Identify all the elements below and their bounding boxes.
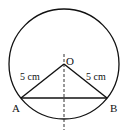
label-point-b: B <box>110 102 117 114</box>
label-center-o: O <box>66 55 74 67</box>
label-radius-left: 5 cm <box>20 71 40 82</box>
label-radius-right: 5 cm <box>86 71 106 82</box>
circle-chord-diagram: O 5 cm 5 cm A B <box>0 0 122 133</box>
label-point-a: A <box>12 102 20 114</box>
